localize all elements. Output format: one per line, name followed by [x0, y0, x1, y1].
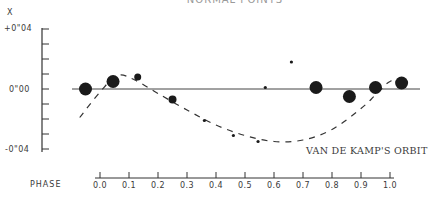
- normal-point: [232, 134, 235, 137]
- normal-point: [107, 75, 120, 88]
- plot-area: [0, 0, 429, 199]
- normal-point: [203, 119, 206, 122]
- normal-point: [169, 96, 177, 104]
- normal-point: [395, 77, 408, 90]
- normal-point: [134, 74, 141, 81]
- normal-point: [290, 60, 293, 63]
- normal-point: [264, 86, 267, 89]
- y-axis-ticks: [42, 29, 49, 149]
- normal-point: [343, 90, 356, 103]
- normal-point: [310, 81, 323, 94]
- normal-point: [369, 81, 382, 94]
- data-points: [79, 60, 408, 143]
- normal-point: [256, 140, 259, 143]
- normal-point: [79, 83, 92, 96]
- orbit-curve: [80, 75, 408, 142]
- phase-axis-ticks: [100, 172, 390, 178]
